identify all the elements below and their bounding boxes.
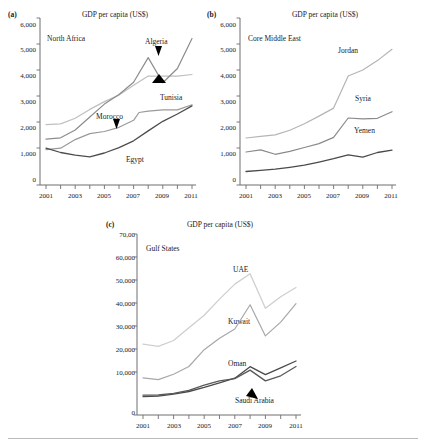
panel-a-xtick-2011: 2011 [177,192,205,200]
panel-a-arrow-algeria [155,46,162,56]
panel-b-tag: (b) [207,10,216,19]
panel-c-plot [110,218,340,438]
panel-b-plot [226,0,426,215]
panel-a-plot [0,0,210,215]
panel-b-xtick-2009: 2009 [348,192,376,200]
panel-b-xtick-2005: 2005 [290,192,318,200]
panel-c-xtick-2005: 2005 [190,422,218,430]
panel-a-xtick-2001: 2001 [32,192,60,200]
panel-b-xtick-2001: 2001 [232,192,260,200]
panel-b-xtick-2003: 2003 [261,192,289,200]
panel-a-xtick-2009: 2009 [148,192,176,200]
panel-b-xtick-2011: 2011 [377,192,405,200]
panel-c-xtick-2003: 2003 [160,422,188,430]
panel-c-xtick-2001: 2001 [129,422,157,430]
panel-c-xtick-2007: 2007 [221,422,249,430]
panel-a-xtick-2005: 2005 [90,192,118,200]
figure-bottom-rule [8,438,418,439]
panel-a-xtick-2003: 2003 [61,192,89,200]
panel-a-xtick-2007: 2007 [119,192,147,200]
panel-c-xtick-2009: 2009 [251,422,279,430]
panel-c-arrow-saudi-arabia [246,388,258,399]
panel-c-xtick-2011: 2011 [282,422,310,430]
panel-b-xtick-2007: 2007 [319,192,347,200]
panel-a-arrow-tunisia [152,74,166,83]
